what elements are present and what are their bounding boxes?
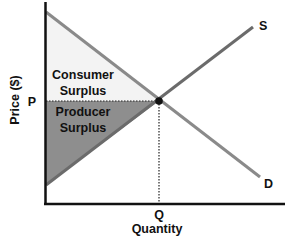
- consumer-surplus-label-line2: Surplus: [60, 84, 107, 98]
- x-axis-title: Quantity: [132, 222, 183, 236]
- quantity-tick-label: Q: [154, 208, 164, 222]
- consumer-surplus-label-line1: Consumer: [52, 68, 114, 82]
- equilibrium-point: [155, 97, 163, 105]
- supply-curve-label: S: [259, 19, 267, 33]
- demand-curve-label: D: [264, 177, 273, 191]
- surplus-diagram: Consumer Surplus Producer Surplus S D P …: [0, 0, 288, 244]
- price-tick-label: P: [28, 95, 36, 109]
- producer-surplus-label-line1: Producer: [56, 105, 111, 119]
- producer-surplus-label-line2: Surplus: [60, 121, 107, 135]
- y-axis-title: Price ($): [8, 75, 22, 124]
